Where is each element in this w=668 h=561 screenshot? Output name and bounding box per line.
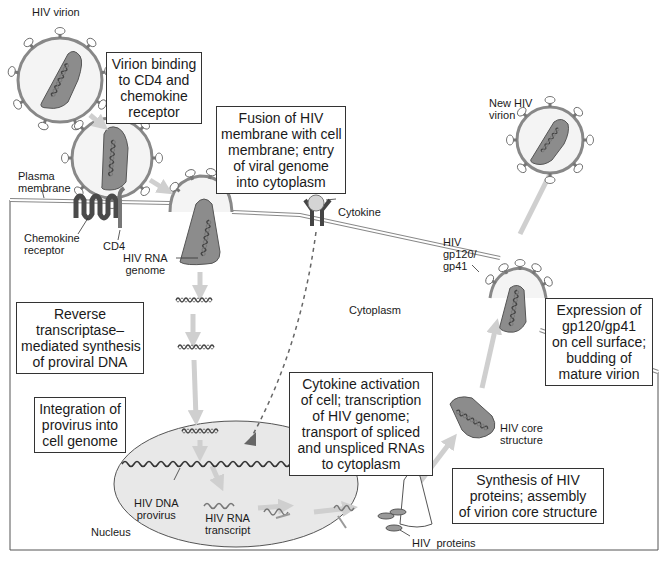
label-hiv-rna-genome: HIV RNAgenome bbox=[123, 252, 168, 276]
label-hiv-core-structure: HIV corestructure bbox=[500, 422, 543, 446]
label-hiv-rna-transcript: HIV RNAtranscript bbox=[205, 512, 250, 536]
label-plasma-membrane: Plasmamembrane bbox=[18, 170, 71, 194]
step-box-integration: Integration ofprovirus intocell genome bbox=[34, 397, 126, 453]
cytokine bbox=[308, 195, 324, 211]
label-hiv-virion: HIV virion bbox=[32, 6, 80, 18]
step-box-fusion: Fusion of HIVmembrane with cellmembrane;… bbox=[216, 106, 346, 194]
label-hiv-dna-provirus: HIV DNAprovirus bbox=[134, 497, 179, 521]
label-chemokine-receptor: Chemokinereceptor bbox=[24, 232, 80, 256]
label-hiv-gp120-gp41: HIVgp120/gp41 bbox=[443, 236, 477, 272]
step-box-binding: Virion bindingto CD4 andchemokinerecepto… bbox=[106, 52, 202, 124]
step-box-reverse-transcription: Reversetranscriptase–mediated synthesiso… bbox=[16, 302, 144, 374]
label-cd4: CD4 bbox=[103, 240, 125, 252]
label-cytoplasm: Cytoplasm bbox=[349, 304, 401, 316]
hiv-core-structure bbox=[450, 397, 495, 438]
label-hiv-proteins: HIV proteins bbox=[412, 537, 476, 549]
step-box-budding: Expression ofgp120/gp41on cell surface;b… bbox=[545, 298, 653, 386]
label-new-hiv-virion: New HIVvirion bbox=[489, 97, 532, 121]
empty-core-shell bbox=[400, 473, 432, 527]
hiv-virion-free bbox=[7, 28, 112, 132]
label-nucleus: Nucleus bbox=[91, 526, 131, 538]
hiv-virion-budding bbox=[484, 260, 554, 333]
step-box-activation: Cytokine activationof cell; transcriptio… bbox=[289, 372, 433, 476]
chemokine-receptor bbox=[76, 196, 116, 218]
label-cytokine: Cytokine bbox=[338, 206, 381, 218]
step-box-synthesis: Synthesis of HIVproteins; assemblyof vir… bbox=[452, 468, 604, 524]
